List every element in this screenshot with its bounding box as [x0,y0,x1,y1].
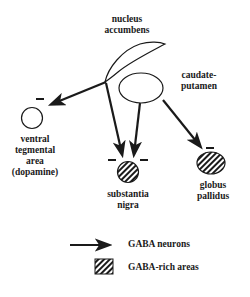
arrow-caudate-to-substantia-nigra [134,103,140,154]
label-caudate-putamen: caudate- putamen [174,70,224,92]
label-line: accumbens [97,25,157,36]
inhibition-marker-vta [36,98,44,100]
legend-hatch-icon [95,259,113,274]
legend-gaba-neurons-label: GABA neurons [128,239,190,249]
label-line: tegmental [10,145,60,156]
label-line: nigra [100,200,156,211]
substantia-nigra-shape [118,162,139,183]
arrow-caudate-to-globus-pallidus [163,100,200,146]
caudate-putamen-shape [119,73,163,103]
label-ventral-tegmental-area: ventral tegmental area (dopamine) [10,134,60,178]
label-line: caudate- [174,70,224,81]
label-line: nucleus [97,14,157,25]
label-substantia-nigra: substantia nigra [100,189,156,211]
label-line: ventral [10,134,60,145]
ventral-tegmental-area-shape [22,108,43,129]
arrow-accumbens-to-vta [52,82,106,104]
label-line: substantia [100,189,156,200]
arrow-accumbens-to-substantia-nigra [106,83,122,154]
label-globus-pallidus: globus pallidus [191,180,235,202]
label-line: (dopamine) [10,167,60,178]
label-line: area [10,156,60,167]
inhibition-marker-sn-right [140,159,148,161]
label-line: putamen [174,81,224,92]
legend-gaba-rich-areas-label: GABA-rich areas [128,262,199,272]
globus-pallidus-shape [197,152,225,174]
label-line: globus [191,180,235,191]
label-line: pallidus [191,191,235,202]
inhibition-marker-gp [206,147,214,149]
label-nucleus-accumbens: nucleus accumbens [97,14,157,36]
inhibition-marker-sn-left [108,159,116,161]
